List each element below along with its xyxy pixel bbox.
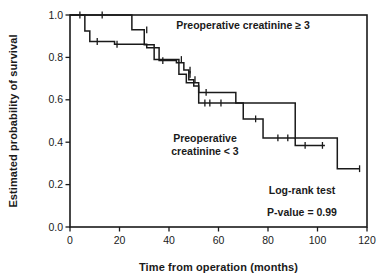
- annotation-curve-low-line2: creatinine < 3: [171, 145, 239, 157]
- x-tick-label: 80: [262, 234, 274, 246]
- y-tick-label: 0.8: [48, 51, 63, 63]
- y-tick-label: 0.6: [48, 93, 63, 105]
- annotation-log-rank-test: Log-rank test: [269, 184, 336, 196]
- y-axis-title: Estimated probability of survival: [7, 34, 19, 207]
- x-tick-label: 40: [163, 234, 175, 246]
- x-tick-label: 120: [358, 234, 376, 246]
- x-tick-label: 60: [213, 234, 225, 246]
- y-tick-label: 1.0: [48, 9, 63, 21]
- y-tick-label: 0.4: [48, 136, 63, 148]
- annotation-curve-high: Preoperative creatinine ≥ 3: [176, 19, 310, 31]
- x-tick-label: 0: [67, 234, 73, 246]
- figure-container: 0204060801001200.00.20.40.60.81.0Time fr…: [0, 0, 389, 278]
- survival-plot: 0204060801001200.00.20.40.60.81.0Time fr…: [0, 0, 389, 278]
- x-tick-label: 100: [309, 234, 327, 246]
- annotation-curve-low-line1: Preoperative: [173, 132, 237, 144]
- annotation-p-value: P-value = 0.99: [267, 206, 337, 218]
- x-axis-title: Time from operation (months): [139, 261, 298, 273]
- survival-curve-2: [70, 15, 325, 145]
- x-tick-label: 20: [114, 234, 126, 246]
- y-tick-label: 0.2: [48, 178, 63, 190]
- y-tick-label: 0.0: [48, 221, 63, 233]
